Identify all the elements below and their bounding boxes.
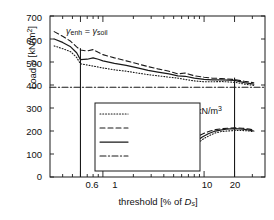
series-mean-gamma_enh_equals_gamma_soil [54,39,254,84]
legend-box [95,103,200,171]
plot-canvas [0,0,274,220]
chart-figure: Load p [kN/m2] threshold [% of Ds] 700 6… [0,0,274,220]
